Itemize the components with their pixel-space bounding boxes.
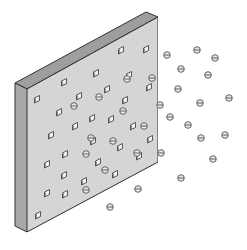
- porous-wall-diagram: [0, 0, 247, 250]
- particle-icon: [96, 94, 103, 101]
- particle-icon: [212, 55, 219, 62]
- particle-icon: [167, 114, 174, 121]
- particle-icon: [197, 100, 204, 107]
- particle-icon: [158, 150, 165, 157]
- particle-icon: [141, 123, 148, 130]
- particle-icon: [102, 167, 109, 174]
- particle-icon: [149, 75, 156, 82]
- particle-icon: [83, 151, 90, 158]
- wall: [15, 12, 158, 232]
- particle-icon: [178, 175, 185, 182]
- particle-icon: [134, 150, 141, 157]
- particle-icon: [88, 135, 95, 142]
- wall-side-face: [15, 83, 27, 232]
- particle-icon: [110, 138, 117, 145]
- particle-icon: [210, 156, 217, 163]
- particle-icon: [205, 72, 212, 79]
- particle-icon: [71, 103, 78, 110]
- particle-icon: [164, 52, 171, 59]
- particle-icon: [222, 132, 229, 139]
- particle-icon: [107, 204, 114, 211]
- particle-icon: [226, 95, 233, 102]
- diagram-canvas: [0, 0, 247, 250]
- particle-icon: [198, 135, 205, 142]
- particle-icon: [124, 76, 131, 83]
- particle-icon: [135, 186, 142, 193]
- particle-icon: [83, 187, 90, 194]
- particle-icon: [120, 108, 127, 115]
- particle-icon: [157, 102, 164, 109]
- particle-icon: [175, 86, 182, 93]
- particle-icon: [194, 47, 201, 54]
- particle-icon: [185, 122, 192, 129]
- particle-icon: [178, 66, 185, 73]
